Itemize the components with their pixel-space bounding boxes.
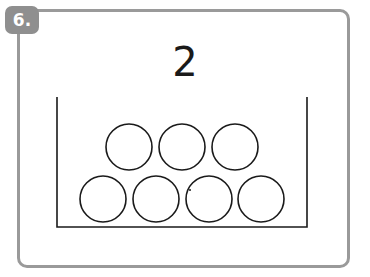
circle-container [0,0,370,277]
circle-bottom-4[interactable] [238,176,284,222]
circle-bottom-2[interactable] [133,176,179,222]
circle-bottom-3[interactable] [186,176,232,222]
circle-bottom-1[interactable] [80,176,126,222]
circle-top-3[interactable] [212,124,258,170]
circle-top-2[interactable] [159,124,205,170]
circle-top-1[interactable] [106,124,152,170]
